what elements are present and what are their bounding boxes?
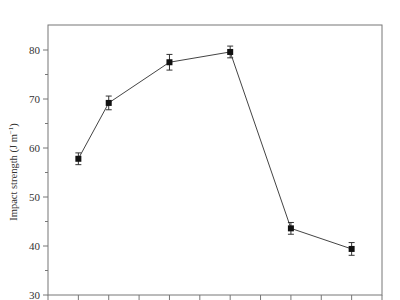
data-point bbox=[227, 46, 233, 58]
y-tick-label: 60 bbox=[29, 142, 41, 154]
square-marker-icon bbox=[106, 100, 112, 106]
impact-strength-chart: 304050607080 Impact strength (J m−1) bbox=[0, 0, 400, 300]
y-tick-label: 50 bbox=[29, 191, 41, 203]
x-axis-ticks bbox=[48, 295, 382, 300]
square-marker-icon bbox=[227, 49, 233, 55]
data-point bbox=[288, 222, 294, 234]
series-line bbox=[78, 52, 351, 249]
data-point bbox=[349, 243, 355, 256]
square-marker-icon bbox=[349, 246, 355, 252]
y-tick-label: 40 bbox=[29, 240, 41, 252]
plot-frame bbox=[48, 25, 382, 295]
y-axis-ticks: 304050607080 bbox=[29, 44, 48, 300]
data-point bbox=[166, 54, 172, 70]
y-tick-label: 30 bbox=[29, 289, 41, 300]
y-axis-title-close: ) bbox=[8, 123, 20, 127]
data-series bbox=[75, 46, 354, 255]
square-marker-icon bbox=[75, 156, 81, 162]
square-marker-icon bbox=[166, 59, 172, 65]
y-axis-title: Impact strength (J m−1) bbox=[7, 123, 20, 221]
y-tick-label: 70 bbox=[29, 93, 41, 105]
y-axis-title-main: Impact strength (J m bbox=[8, 134, 20, 221]
square-marker-icon bbox=[288, 225, 294, 231]
y-tick-label: 80 bbox=[29, 44, 41, 56]
plot-border bbox=[48, 25, 382, 295]
